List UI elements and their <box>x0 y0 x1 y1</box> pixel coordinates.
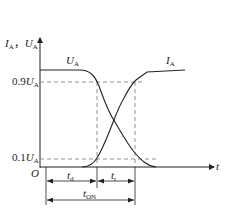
level-0.9-label: 0.9UA <box>12 76 39 89</box>
ia-curve <box>82 70 185 167</box>
td-label: td <box>67 170 74 183</box>
waveform-diagram <box>0 0 225 221</box>
ua-curve-label: UA <box>66 55 79 68</box>
x-axis-label: t <box>216 161 219 172</box>
y-axis-label: IA，UA <box>5 38 38 51</box>
tr-label: tr <box>111 170 116 183</box>
level-0.1-label: 0.1UA <box>12 152 39 165</box>
ia-curve-label: IA <box>166 55 175 68</box>
ton-label: tON <box>83 188 96 201</box>
ua-curve <box>40 70 156 167</box>
origin-label: O <box>31 168 39 179</box>
